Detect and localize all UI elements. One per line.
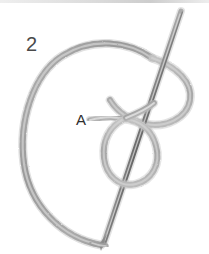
point-a-label: A [76,112,86,127]
step-number: 2 [26,34,37,54]
knot-diagram-figure: 2 A [0,0,209,254]
thread-bottom-junction [92,243,106,246]
